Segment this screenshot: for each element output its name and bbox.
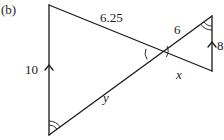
- figure-label: (b): [1, 2, 16, 17]
- length-label-8: 8: [217, 38, 224, 53]
- double-arc-top-right-outer-icon: [201, 24, 212, 30]
- single-arc-intersection-right-icon: [166, 46, 168, 57]
- length-label-y: y: [101, 90, 109, 105]
- double-arc-bottom-left-outer-icon: [49, 121, 60, 127]
- transversal-bottom-left-to-top-right: [49, 16, 212, 135]
- diagram-svg: (b) 6.25 6 10 8 x y: [0, 0, 224, 140]
- similar-triangles-diagram: (b) 6.25 6 10 8 x y: [0, 0, 224, 140]
- double-arc-bottom-left-inner-icon: [49, 125, 57, 129]
- length-label-6: 6: [174, 22, 181, 37]
- transversal-top-left-to-bottom-right: [49, 5, 212, 71]
- single-arc-intersection-left-icon: [145, 49, 147, 60]
- length-label-6-25: 6.25: [100, 10, 123, 25]
- length-label-x: x: [175, 67, 182, 82]
- double-arc-top-right-inner-icon: [204, 22, 212, 26]
- length-label-10: 10: [25, 62, 38, 77]
